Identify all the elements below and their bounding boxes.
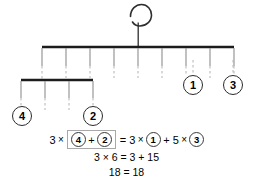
bracket-circle-4: 4 — [71, 132, 86, 147]
sub-bar-hanger-ticks — [21, 81, 93, 98]
equation-line-2: 3 × 6 = 3 + 15 — [0, 149, 253, 164]
weight-circle-1[interactable]: 1 — [183, 75, 203, 95]
equation-line-1: 3 × 4 + 2 = 3 × 1 + 5 × 3 — [0, 130, 253, 149]
top-bar-hanger-ticks — [42, 48, 234, 66]
grouping-bracket: 4 + 2 — [67, 130, 116, 149]
bracket-plus-sign: + — [88, 134, 94, 146]
bracket-circle-2: 2 — [97, 132, 112, 147]
weight-circle-4[interactable]: 4 — [12, 106, 32, 126]
hook-icon — [131, 5, 152, 48]
rhs-second-coefficient: 5 — [173, 134, 179, 146]
sub-bar-dashed-drops — [21, 98, 93, 110]
equation-line-3: 18 = 18 — [0, 164, 253, 179]
top-bar-dashed-drops — [42, 66, 234, 80]
equation-block: 3 × 4 + 2 = 3 × 1 + 5 × 3 3 × 6 = 3 + 15… — [0, 130, 253, 179]
mobile-svg — [0, 0, 253, 135]
right-weight-drop-lines — [193, 60, 233, 75]
rhs-circle-1: 1 — [146, 132, 161, 147]
rhs-first-coefficient: 3 — [129, 134, 135, 146]
weight-circle-3[interactable]: 3 — [223, 75, 243, 95]
multiply-sign-rhs-2: × — [181, 134, 187, 145]
rhs-plus-sign: + — [163, 134, 169, 146]
balance-mobile-diagram: 4 2 1 3 — [0, 0, 253, 135]
equals-sign-line1: = — [120, 134, 126, 146]
lhs-coefficient: 3 — [49, 134, 55, 146]
multiply-sign-rhs-1: × — [138, 134, 144, 145]
multiply-sign-lhs: × — [58, 134, 64, 145]
weight-circle-2[interactable]: 2 — [83, 106, 103, 126]
rhs-circle-3: 3 — [189, 132, 204, 147]
